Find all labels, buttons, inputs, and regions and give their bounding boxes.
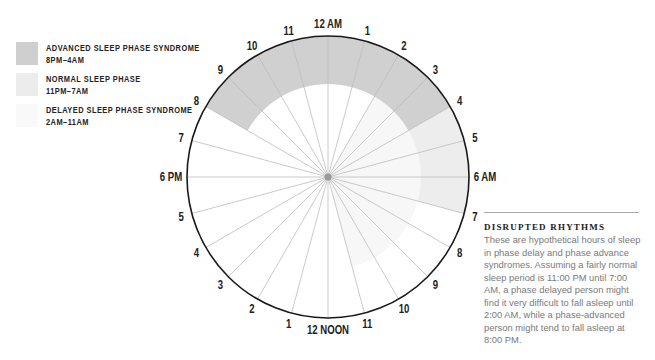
hour-label: 5 <box>179 210 184 223</box>
hour-label: 12 AM <box>314 17 342 30</box>
hour-label: 4 <box>457 94 462 107</box>
hour-label: 3 <box>433 63 438 76</box>
hour-spoke <box>206 107 328 178</box>
hour-spoke <box>192 141 328 177</box>
hour-spoke <box>192 177 328 213</box>
sidebar-title: DISRUPTED RHYTHMS <box>484 222 644 232</box>
hour-label: 9 <box>433 278 438 291</box>
hour-label: 7 <box>179 131 184 144</box>
hour-label: 3 <box>218 278 223 291</box>
hour-label: 1 <box>286 317 291 330</box>
hour-label: 2 <box>401 39 406 52</box>
sidebar-note: DISRUPTED RHYTHMS These are hypothetical… <box>484 212 644 347</box>
hour-label: 11 <box>362 317 372 330</box>
hour-label: 4 <box>194 246 199 259</box>
hour-label: 6 PM <box>160 170 182 183</box>
hour-label: 6 AM <box>474 170 497 183</box>
hour-label: 2 <box>249 302 254 315</box>
hour-label: 10 <box>247 39 258 52</box>
center-dot <box>325 174 332 181</box>
hour-label: 8 <box>194 94 199 107</box>
hour-spoke <box>258 177 329 299</box>
hour-spoke <box>228 177 328 277</box>
hour-label: 7 <box>472 210 477 223</box>
hour-spoke <box>292 177 328 313</box>
hour-label: 11 <box>284 24 294 37</box>
sidebar-body: These are hypothetical hours of sleep in… <box>484 234 644 347</box>
hour-spoke <box>206 177 328 248</box>
hour-label: 9 <box>218 63 223 76</box>
hour-label: 10 <box>399 302 410 315</box>
hour-label: 1 <box>365 24 370 37</box>
hour-label: 8 <box>457 246 462 259</box>
hour-label: 5 <box>472 131 477 144</box>
hour-label: 12 NOON <box>307 323 349 336</box>
sidebar-divider <box>484 212 639 213</box>
